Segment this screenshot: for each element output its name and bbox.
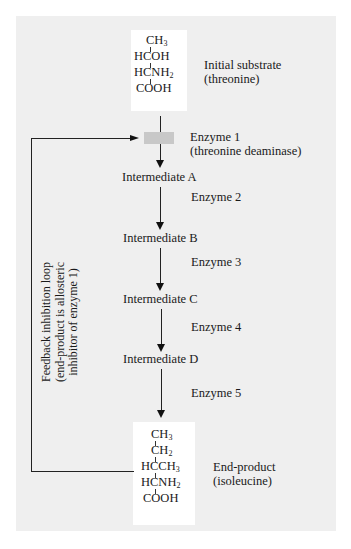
arrow-b-to-c bbox=[160, 248, 161, 286]
arrowhead-icon bbox=[156, 160, 164, 168]
arrow-c-to-d bbox=[161, 309, 162, 347]
enzyme3-label: Enzyme 3 bbox=[191, 255, 241, 269]
feedback-arrowhead-icon bbox=[130, 135, 139, 141]
threonine-formula: CH3 HCOH HCNH2 COOH bbox=[134, 34, 186, 98]
enzyme4-label: Enzyme 4 bbox=[191, 320, 241, 334]
enzyme5-label: Enzyme 5 bbox=[191, 386, 241, 400]
formula-hcnh2: HCNH2 bbox=[141, 475, 180, 489]
formula-ch3: CH3 bbox=[151, 427, 172, 441]
arrow-d-to-product bbox=[161, 369, 162, 413]
product-label: End-product (isoleucine) bbox=[213, 460, 275, 488]
arrowhead-icon bbox=[157, 344, 165, 352]
substrate-label: Initial substrate (threonine) bbox=[204, 58, 281, 86]
feedback-line-top bbox=[31, 138, 131, 139]
enzyme1-label: Enzyme 1 (threonine deaminase) bbox=[190, 130, 301, 158]
formula-cooh: COOH bbox=[136, 81, 171, 95]
arrowhead-icon bbox=[156, 283, 164, 291]
intermediate-c: Intermediate C bbox=[123, 292, 198, 306]
intermediate-b: Intermediate B bbox=[123, 231, 198, 245]
formula-cooh: COOH bbox=[143, 491, 178, 505]
formula-hcoh: HCOH bbox=[134, 49, 169, 63]
enzyme1-site bbox=[144, 132, 174, 144]
intermediate-d: Intermediate D bbox=[123, 352, 198, 366]
arrow-a-to-b bbox=[160, 187, 161, 223]
formula-hcnh2: HCNH2 bbox=[134, 65, 173, 79]
isoleucine-formula: CH3 CH2 HCCH3 HCNH2 COOH bbox=[141, 428, 195, 508]
feedback-line-left bbox=[31, 138, 32, 472]
intermediate-a: Intermediate A bbox=[122, 170, 197, 184]
arrowhead-icon bbox=[156, 222, 164, 230]
arrowhead-icon bbox=[157, 410, 165, 418]
feedback-loop-label: Feedback inhibition loop (end-product is… bbox=[40, 247, 81, 397]
enzyme2-label: Enzyme 2 bbox=[191, 190, 241, 204]
formula-hcch3: HCCH3 bbox=[141, 459, 180, 473]
feedback-line-bottom bbox=[31, 471, 134, 472]
formula-ch3: CH3 bbox=[146, 33, 167, 47]
